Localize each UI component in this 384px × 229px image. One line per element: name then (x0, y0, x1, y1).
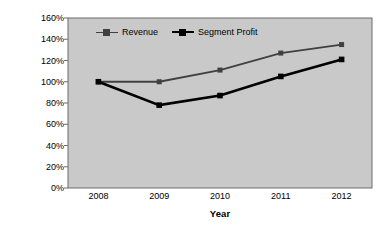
legend-label-segment-profit: Segment Profit (198, 27, 258, 37)
data-point-segment-profit (156, 102, 162, 108)
data-point-segment-profit (96, 79, 102, 85)
legend-marker-segment-profit-icon (172, 28, 194, 37)
legend-marker-revenue-icon (96, 28, 118, 37)
legend-label-revenue: Revenue (122, 27, 158, 37)
trend-percentage-line-chart: Trend Percentage 0%20%40%60%80%100%120%1… (0, 0, 384, 229)
x-axis-tick-label: 2009 (134, 191, 184, 201)
legend-entry-segment-profit[interactable]: Segment Profit (172, 27, 258, 37)
data-point-segment-profit (278, 74, 284, 80)
data-point-segment-profit (217, 93, 223, 99)
data-point-revenue (278, 51, 283, 56)
x-axis-title: Year (68, 208, 372, 219)
data-point-segment-profit (339, 57, 345, 63)
x-axis-tick-label: 2010 (195, 191, 245, 201)
plot-background (68, 18, 372, 188)
x-axis-tick-label: 2008 (73, 191, 123, 201)
x-axis-tick-label: 2011 (256, 191, 306, 201)
x-axis-tick-label: 2012 (317, 191, 367, 201)
data-point-revenue (339, 42, 344, 47)
data-point-revenue (157, 79, 162, 84)
data-point-revenue (218, 68, 223, 73)
legend-entry-revenue[interactable]: Revenue (96, 27, 158, 37)
chart-legend: Revenue Segment Profit (96, 27, 258, 37)
